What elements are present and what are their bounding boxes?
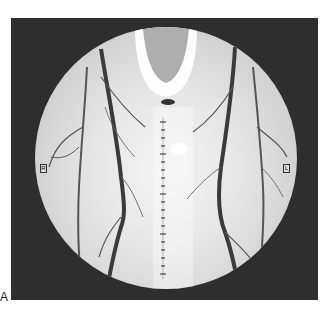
panel-label: A xyxy=(0,290,8,304)
left-side-marker: R xyxy=(40,164,47,173)
circular-field-of-view xyxy=(35,27,297,289)
right-side-marker: L xyxy=(283,164,290,173)
angiogram-image xyxy=(35,27,297,289)
angiogram-frame: R L xyxy=(11,18,318,300)
